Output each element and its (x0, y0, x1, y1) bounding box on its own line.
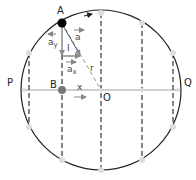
label-a: a (75, 32, 81, 42)
label-x: x (77, 82, 83, 92)
label-P: P (7, 77, 13, 88)
label-ay: ay (48, 37, 58, 49)
label-theta: I (67, 43, 70, 53)
label-Q: Q (184, 77, 192, 88)
label-B: B (50, 79, 57, 90)
label-A: A (57, 5, 64, 16)
label-ax: ax (67, 64, 77, 76)
point-A (58, 19, 67, 28)
label-O: O (103, 92, 111, 103)
label-r: r (90, 63, 94, 73)
point-B (58, 86, 66, 94)
rotation-direction-icon (84, 14, 92, 16)
circular-motion-diagram: A B O P Q r x a I ay ax (0, 0, 196, 180)
